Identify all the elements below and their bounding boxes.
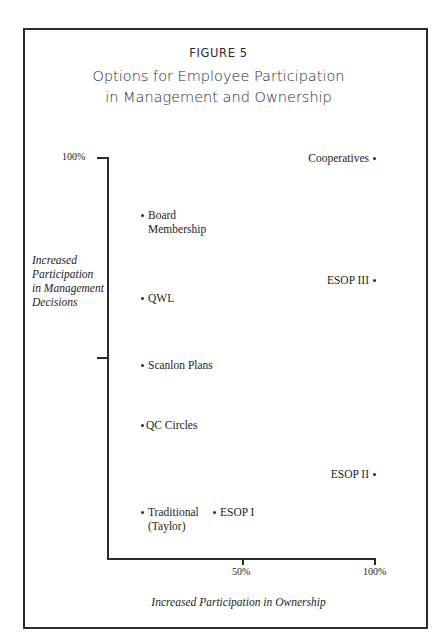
figure-title: Options for Employee Participation in Ma… <box>0 66 437 108</box>
figure-label: FIGURE 5 <box>0 46 437 60</box>
point-marker <box>141 364 144 367</box>
y-tick-100 <box>97 157 108 159</box>
x-tick-100 <box>374 559 376 565</box>
point-label: Scanlon Plans <box>148 359 213 371</box>
point-marker <box>141 424 144 427</box>
point-label: ESOP II <box>331 468 369 480</box>
y-axis-title-line: Increased <box>32 253 104 267</box>
point-qc-circles: QC Circles <box>141 418 197 432</box>
point-marker <box>373 473 376 476</box>
point-esop-ii: ESOP II <box>331 467 376 481</box>
point-marker <box>213 511 216 514</box>
point-label: ESOP III <box>327 274 369 286</box>
point-esop-i: ESOP I <box>213 505 254 519</box>
point-esop-iii: ESOP III <box>327 273 376 287</box>
point-label: ESOP I <box>220 506 254 518</box>
figure-title-line-1: Options for Employee Participation <box>0 66 437 87</box>
point-traditional-taylor: Traditional (Taylor) <box>141 505 199 533</box>
x-tick-label-100: 100% <box>363 566 386 577</box>
point-label: Membership <box>141 222 206 236</box>
point-marker <box>141 297 144 300</box>
x-axis-title: Increased Participation in Ownership <box>0 596 437 608</box>
point-cooperatives: Cooperatives <box>308 151 376 165</box>
x-tick-label-50: 50% <box>232 566 250 577</box>
figure-frame <box>23 28 428 629</box>
point-marker <box>373 279 376 282</box>
point-label: Cooperatives <box>308 152 369 164</box>
y-axis-title-line: in Management <box>32 281 104 295</box>
x-tick-50 <box>242 559 244 565</box>
point-board-membership: Board Membership <box>141 208 206 236</box>
point-marker <box>141 511 144 514</box>
point-marker <box>373 157 376 160</box>
y-axis-title: Increased Participation in Management De… <box>32 253 104 309</box>
y-tick-label-100: 100% <box>62 151 85 162</box>
point-qwl: QWL <box>141 291 174 305</box>
y-axis-title-line: Participation <box>32 267 104 281</box>
figure-title-line-2: in Management and Ownership <box>0 87 437 108</box>
point-label: QC Circles <box>146 419 197 431</box>
point-label: QWL <box>148 292 174 304</box>
point-label: Traditional <box>148 506 199 518</box>
point-label: (Taylor) <box>141 519 199 533</box>
point-label: Board <box>148 209 176 221</box>
y-axis-title-line: Decisions <box>32 295 104 309</box>
point-marker <box>141 214 144 217</box>
point-scanlon-plans: Scanlon Plans <box>141 358 213 372</box>
y-tick-mid <box>97 357 108 359</box>
